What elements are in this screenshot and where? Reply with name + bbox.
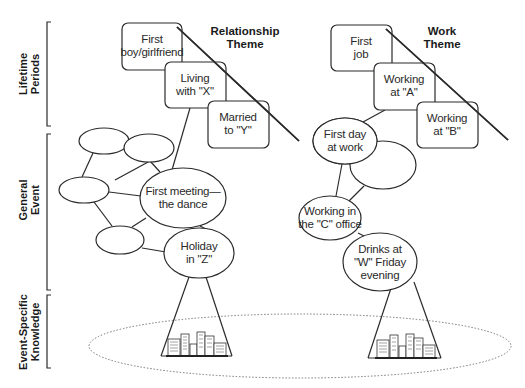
work-theme-title: Work Theme: [423, 25, 460, 51]
event-label-first-day-at-work: First day at work: [324, 128, 366, 154]
event-empty-1: [79, 128, 129, 154]
diagram-canvas: [0, 0, 525, 388]
label-line: First: [350, 35, 371, 48]
label-line: at work: [324, 141, 366, 154]
event-label-first-meeting: First meeting— the dance: [145, 185, 220, 211]
level-label-line: Event: [29, 180, 41, 221]
autobiographical-memory-diagram: Lifetime Periods General Event Event-Spe…: [0, 0, 525, 388]
level-label-line: General: [17, 180, 29, 221]
label-line: job: [350, 48, 371, 61]
label-line: to "Y": [219, 124, 257, 137]
label-line: First: [120, 33, 183, 46]
event-empty-3: [59, 177, 109, 203]
period-label-working-at-a: Working at "A": [384, 73, 425, 99]
period-label-first-boyfriend: First boy/girlfriend: [120, 33, 183, 59]
label-line: First day: [324, 128, 366, 141]
label-line: Working in: [298, 205, 361, 218]
label-line: Working: [427, 112, 468, 125]
level-label-lifetime-periods: Lifetime Periods: [17, 53, 41, 95]
event-label-holiday-z: Holiday in "Z": [181, 240, 218, 266]
label-line: First meeting—: [145, 185, 220, 198]
event-specific-knowledge-pool: [89, 314, 511, 378]
label-line: the "C" office: [298, 218, 361, 231]
theme-title-line: Theme: [210, 38, 279, 51]
bracket-general-event: [47, 134, 51, 290]
label-line: Married: [219, 111, 257, 124]
level-label-line: Periods: [29, 53, 41, 95]
period-label-first-job: First job: [350, 35, 371, 61]
label-line: Working: [384, 73, 425, 86]
level-label-general-event: General Event: [17, 180, 41, 221]
label-line: in "Z": [181, 253, 218, 266]
event-empty-4: [96, 226, 144, 254]
level-label-event-specific-knowledge: Event-Specific Knowledge: [17, 294, 41, 370]
bracket-lifetime-periods: [47, 22, 51, 126]
city-skyline-icon: [375, 334, 437, 359]
label-line: evening: [354, 269, 406, 282]
label-line: at "A": [384, 86, 425, 99]
bracket-event-specific: [47, 295, 51, 368]
event-empty-2: [124, 134, 174, 162]
label-line: "W" Friday: [354, 256, 406, 269]
theme-title-line: Work: [423, 25, 460, 38]
period-label-living-with-x: Living with "X": [176, 72, 214, 98]
label-line: boy/girlfriend: [120, 46, 183, 59]
level-label-line: Event-Specific: [17, 294, 29, 370]
level-label-line: Knowledge: [29, 294, 41, 370]
relationship-theme-title: Relationship Theme: [210, 25, 279, 51]
label-line: the dance: [145, 198, 220, 211]
theme-title-line: Theme: [423, 38, 460, 51]
period-label-married-to-y: Married to "Y": [219, 111, 257, 137]
level-label-line: Lifetime: [17, 53, 29, 95]
label-line: Holiday: [181, 240, 218, 253]
period-label-working-at-b: Working at "B": [427, 112, 468, 138]
label-line: Drinks at: [354, 243, 406, 256]
label-line: Living: [176, 72, 214, 85]
label-line: at "B": [427, 125, 468, 138]
event-label-drinks-at-w: Drinks at "W" Friday evening: [354, 243, 406, 282]
event-label-working-in-c-office: Working in the "C" office: [298, 205, 361, 231]
label-line: with "X": [176, 85, 214, 98]
theme-title-line: Relationship: [210, 25, 279, 38]
city-skyline-icon: [166, 332, 228, 357]
